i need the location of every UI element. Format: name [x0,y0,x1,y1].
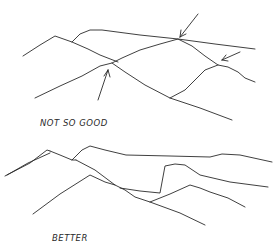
mountain-ridge-line [23,36,118,62]
not-so-good-label: NOT SO GOOD [40,118,108,128]
better-sketch [5,146,272,225]
arrow-icon [180,14,198,37]
mountain-ridge-line [170,65,218,98]
mountain-ridge-line [50,151,76,160]
mountain-ridge-line [72,30,255,49]
mountain-ridge-line [150,185,245,207]
mountain-ridge-line [72,146,272,162]
mountain-ridge-line [33,175,115,214]
arrow-icon [98,70,108,100]
mountain-ridge-line [35,39,255,98]
not-so-good-sketch [23,14,255,120]
mountain-ridge-line [112,63,232,120]
better-label: BETTER [52,233,88,243]
mountain-ridge-line [120,164,268,193]
mountain-ridge-line [76,160,205,225]
